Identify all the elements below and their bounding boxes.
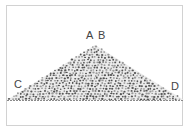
sand-pile	[0, 0, 191, 129]
label-d: D	[171, 81, 179, 92]
label-a: A	[86, 30, 93, 41]
label-b: B	[98, 30, 105, 41]
pile-outline	[7, 45, 184, 100]
label-c: C	[14, 79, 22, 90]
